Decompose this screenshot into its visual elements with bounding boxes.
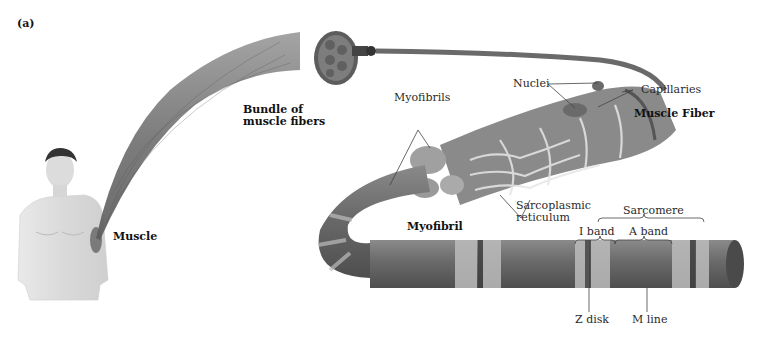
label-myofibril: Myofibril: [407, 221, 463, 233]
label-a-band: A band: [629, 226, 668, 238]
label-capillaries: Capillaries: [641, 84, 701, 96]
diagram-artwork: [0, 0, 759, 340]
myofibril-cylinder: [370, 240, 744, 288]
label-myofibrils: Myofibrils: [394, 92, 450, 104]
label-i-band: I band: [579, 226, 615, 238]
muscle-structure-diagram: (a) Muscle Bundle of muscle fibers Myofi…: [0, 0, 759, 340]
label-sarcoplasmic-line2: reticulum: [516, 212, 570, 224]
human-figure: [18, 148, 108, 300]
label-bundle-line2: muscle fibers: [243, 116, 325, 128]
label-nuclei: Nuclei: [513, 78, 549, 90]
label-muscle-fiber: Muscle Fiber: [634, 108, 715, 120]
panel-label: (a): [17, 18, 35, 30]
bundle-cross-section: [314, 31, 376, 85]
label-muscle: Muscle: [113, 231, 157, 243]
label-sarcomere: Sarcomere: [623, 205, 684, 217]
label-m-line: M line: [632, 314, 667, 326]
label-z-disk: Z disk: [575, 314, 609, 326]
muscle-shape: [96, 32, 300, 240]
